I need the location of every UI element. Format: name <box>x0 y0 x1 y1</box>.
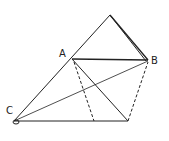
label-c: C <box>6 106 13 116</box>
line-a-b <box>72 59 148 60</box>
diagram-svg <box>0 0 169 141</box>
geometry-diagram: A B C <box>0 0 169 141</box>
label-a: A <box>59 49 66 59</box>
line-apex-b-inner <box>110 15 146 61</box>
line-a-d <box>72 59 128 121</box>
dashed-d-b <box>128 62 148 121</box>
label-b: B <box>151 56 158 66</box>
dashed-a-e <box>74 62 94 121</box>
line-c-apex <box>14 15 110 121</box>
line-c-b <box>14 61 148 121</box>
